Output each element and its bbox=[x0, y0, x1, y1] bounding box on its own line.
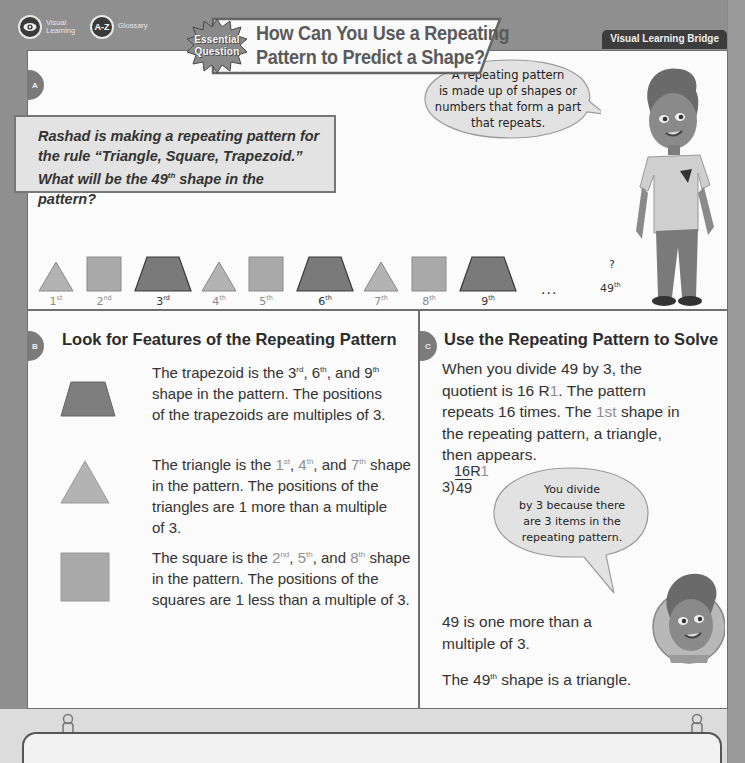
triangle-icon bbox=[363, 260, 399, 292]
character-illustration bbox=[618, 61, 728, 311]
pattern-item-9: 9th bbox=[459, 260, 517, 308]
character-portrait bbox=[649, 569, 725, 665]
square-icon bbox=[248, 256, 284, 292]
section-c-heading: Use the Repeating Pattern to Solve bbox=[444, 330, 718, 349]
trapezoid-icon bbox=[296, 256, 354, 292]
pattern-item-5: 5th bbox=[248, 260, 284, 308]
square-icon bbox=[86, 256, 122, 292]
solution-paragraph: When you divide 49 by 3, the quotient is… bbox=[442, 358, 680, 466]
essential-question-badge: Essential Question bbox=[186, 18, 248, 74]
unknown-shape-mark: ? bbox=[609, 258, 615, 271]
glossary-button[interactable]: A-Z Glossary bbox=[90, 15, 152, 39]
square-icon bbox=[60, 552, 110, 602]
page-title: How Can You Use a Repeating Pattern to P… bbox=[256, 21, 509, 69]
section-b-heading: Look for Features of the Repeating Patte… bbox=[62, 330, 397, 349]
notebook-box bbox=[22, 732, 722, 763]
pattern-item-4: 4th bbox=[201, 260, 237, 308]
section-a-tab: A bbox=[27, 70, 44, 100]
pattern-item-6: 6th bbox=[296, 260, 354, 308]
trapezoid-icon bbox=[134, 256, 192, 292]
pattern-item-2: 2nd bbox=[86, 260, 122, 308]
glossary-icon: A-Z bbox=[90, 15, 114, 39]
square-icon bbox=[411, 256, 447, 292]
pattern-item-3: 3rd bbox=[134, 260, 192, 308]
section-a: A Rashad is making a repeating pattern f… bbox=[28, 51, 727, 311]
triangle-icon bbox=[38, 260, 74, 292]
pattern-item-7: 7th bbox=[363, 260, 399, 308]
section-c: C Use the Repeating Pattern to Solve Whe… bbox=[422, 311, 727, 708]
ellipsis: ... bbox=[541, 281, 557, 297]
final-answer: The 49th shape is a triangle. bbox=[442, 666, 631, 691]
pattern-item-49-label: 49th bbox=[600, 281, 621, 295]
triangle-icon bbox=[201, 260, 237, 292]
section-b: B Look for Features of the Repeating Pat… bbox=[28, 311, 420, 708]
problem-statement: Rashad is making a repeating pattern for… bbox=[14, 115, 336, 193]
page-edge bbox=[727, 0, 745, 763]
visual-learning-label: Visual Learning bbox=[46, 19, 80, 35]
long-division: 16R1 3)49 bbox=[442, 463, 489, 496]
lesson-panel: A Rashad is making a repeating pattern f… bbox=[27, 50, 728, 709]
section-c-tab: C bbox=[420, 331, 437, 361]
pattern-item-8: 8th bbox=[411, 260, 447, 308]
visual-learning-bridge-label: Visual Learning Bridge bbox=[602, 30, 727, 49]
speech-bubble-hint: You divide by 3 because there are 3 item… bbox=[486, 465, 661, 595]
pattern-item-1: 1st bbox=[38, 260, 74, 308]
triangle-icon bbox=[60, 460, 110, 504]
visual-learning-button[interactable]: Visual Learning bbox=[18, 15, 80, 39]
bottom-notebook-area bbox=[0, 709, 727, 763]
section-b-tab: B bbox=[27, 331, 44, 361]
eye-icon bbox=[18, 15, 42, 39]
trapezoid-icon bbox=[60, 381, 116, 417]
conclusion-multiple: 49 is one more than a multiple of 3. bbox=[442, 611, 592, 654]
title-banner: How Can You Use a Repeating Pattern to P… bbox=[210, 17, 502, 75]
trapezoid-icon bbox=[459, 256, 517, 292]
glossary-label: Glossary bbox=[118, 22, 152, 30]
